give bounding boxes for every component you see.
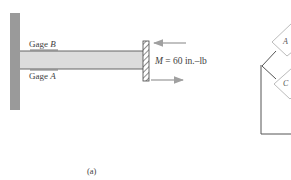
diagram-canvas bbox=[0, 0, 291, 180]
loading-end-plate bbox=[143, 41, 149, 81]
cantilever-beam-figure: Gage B Gage A M = 60 in.–lb A C (a) bbox=[0, 0, 291, 180]
circuit-node-c-label: C bbox=[283, 79, 288, 88]
beam bbox=[20, 51, 143, 69]
fixed-wall bbox=[10, 13, 20, 110]
figure-caption: (a) bbox=[87, 167, 96, 176]
gage-b-label: Gage B bbox=[29, 40, 56, 49]
gage-a-label: Gage A bbox=[29, 72, 56, 81]
node-a-diamond bbox=[272, 23, 291, 56]
applied-moment-label: M = 60 in.–lb bbox=[155, 57, 207, 67]
circuit-node-a-label: A bbox=[283, 37, 288, 46]
